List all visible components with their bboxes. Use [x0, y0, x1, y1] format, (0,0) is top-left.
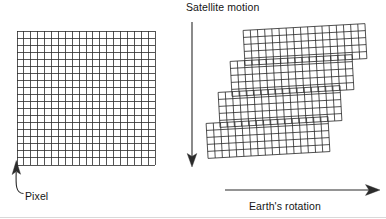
earths-rotation-label: Earth's rotation [249, 200, 321, 212]
bottom-hairline [0, 217, 386, 218]
pixel-label: Pixel [25, 190, 48, 202]
satellite-motion-label: Satellite motion [186, 1, 259, 13]
satellite-scan-geometry-diagram [0, 0, 386, 219]
ideal-pixel-grid [17, 31, 155, 165]
